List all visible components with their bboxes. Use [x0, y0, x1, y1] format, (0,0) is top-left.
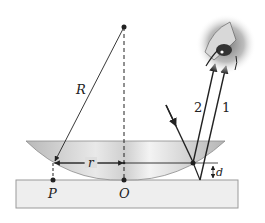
- label-gap: d: [216, 166, 223, 179]
- plano-convex-lens: [26, 141, 225, 180]
- incident-ray-arrow: [166, 105, 176, 126]
- label-ray-1: 1: [222, 100, 230, 115]
- newtons-rings-diagram: R r d P O 2 1: [0, 0, 265, 223]
- r-axis-point: [123, 162, 126, 165]
- point-o-dot: [122, 178, 127, 183]
- label-point-o: O: [119, 186, 130, 201]
- label-ray-2: 2: [194, 100, 202, 115]
- label-radius: R: [75, 82, 86, 97]
- label-point-p: P: [47, 186, 57, 201]
- eye-icon: [196, 14, 256, 74]
- point-p-dot: [51, 178, 56, 183]
